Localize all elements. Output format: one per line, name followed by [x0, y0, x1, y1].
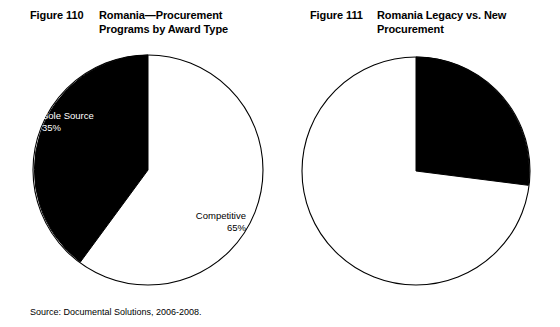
figure-110-heading: Figure 110 Romania—Procurement Programs … — [30, 8, 272, 36]
pie-chart-111 — [300, 55, 532, 287]
figure-110-source: Source: Documental Solutions, 2006-2008. — [30, 306, 202, 318]
pie-label-competitive-value: 65% — [150, 222, 246, 234]
pie-chart-110 — [31, 53, 265, 287]
figure-110-number: Figure 110 — [30, 8, 99, 22]
pie-label-sole-source-value: 35% — [42, 122, 94, 134]
pie-label-sole-source-name: Sole Source — [42, 110, 94, 121]
pie-chart-111-svg — [300, 55, 532, 287]
pie-label-competitive: Competitive 65% — [150, 210, 246, 234]
figure-110-title: Romania—Procurement Programs by Award Ty… — [99, 8, 272, 36]
figure-111-heading: Figure 111 Romania Legacy vs. New Procur… — [310, 8, 554, 36]
pie-label-sole-source: Sole Source 35% — [42, 110, 94, 134]
figure-111-number: Figure 111 — [310, 8, 377, 22]
figure-panel-111: Figure 111 Romania Legacy vs. New Procur… — [282, 0, 560, 327]
pie-slice-legacy — [416, 57, 529, 185]
figure-panel-110: Figure 110 Romania—Procurement Programs … — [0, 0, 282, 327]
pie-label-competitive-name: Competitive — [196, 210, 246, 221]
figure-111-title: Romania Legacy vs. New Procurement — [377, 8, 554, 36]
pie-chart-110-svg — [31, 53, 265, 287]
